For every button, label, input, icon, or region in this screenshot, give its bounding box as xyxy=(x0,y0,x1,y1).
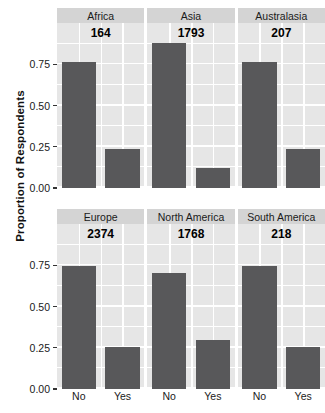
y-tick-label: 0.00 xyxy=(30,182,57,194)
y-tick-mark xyxy=(53,306,57,307)
bar-yes xyxy=(196,340,230,389)
panel-count-label: 1768 xyxy=(147,227,234,241)
y-tick-mark xyxy=(53,187,57,188)
x-tick-label: No xyxy=(147,389,191,403)
facet-australasia: Australasia207 xyxy=(238,8,325,202)
y-tick-label: 0.00 xyxy=(30,383,57,395)
bar-yes xyxy=(105,347,139,389)
bar-no xyxy=(62,62,96,188)
bar-no xyxy=(62,266,96,389)
bar-no xyxy=(152,43,186,188)
y-tick-mark xyxy=(53,265,57,266)
x-tick-label xyxy=(57,188,101,202)
panel-count-label: 218 xyxy=(238,227,325,241)
y-tick-mark xyxy=(53,146,57,147)
plot-panel: 207 xyxy=(238,23,325,188)
x-axis-ticks xyxy=(57,188,144,202)
y-axis-ticks-row-1: 0.000.250.500.75 xyxy=(0,224,57,389)
x-tick-label xyxy=(147,188,191,202)
y-tick-label: 0.75 xyxy=(30,259,57,271)
y-tick-text: 0.75 xyxy=(30,58,50,70)
facet-strip-label: Africa xyxy=(57,8,144,23)
facet-strip-label: Australasia xyxy=(238,8,325,23)
facet-strip-label: Asia xyxy=(147,8,234,23)
panel-count-label: 2374 xyxy=(57,227,144,241)
facet-north-america: North America1768NoYes xyxy=(147,209,234,403)
y-tick-label: 0.50 xyxy=(30,100,57,112)
y-tick-label: 0.25 xyxy=(30,342,57,354)
plot-panel: 164 xyxy=(57,23,144,188)
facet-strip-label: Europe xyxy=(57,209,144,224)
x-tick-label xyxy=(281,188,325,202)
x-axis-ticks: NoYes xyxy=(57,389,144,403)
bar-yes xyxy=(286,149,320,188)
y-tick-text: 0.75 xyxy=(30,259,50,271)
bar-yes xyxy=(196,168,230,188)
plot-panel: 1793 xyxy=(147,23,234,188)
y-tick-text: 0.50 xyxy=(30,301,50,313)
bar-no xyxy=(242,62,276,188)
y-tick-mark xyxy=(53,347,57,348)
y-tick-label: 0.50 xyxy=(30,301,57,313)
bar-yes xyxy=(286,347,320,389)
panel-count-label: 164 xyxy=(57,26,144,40)
x-axis-ticks: NoYes xyxy=(238,389,325,403)
bar-no xyxy=(242,266,276,389)
x-tick-label: Yes xyxy=(281,389,325,403)
facet-africa: Africa164 xyxy=(57,8,144,202)
facet-strip-label: North America xyxy=(147,209,234,224)
bar-yes xyxy=(105,149,139,188)
gridline-vertical xyxy=(101,23,103,188)
y-tick-mark xyxy=(53,105,57,106)
y-axis-ticks-row-0: 0.000.250.500.75 xyxy=(0,23,57,188)
plot-panel: 1768 xyxy=(147,224,234,389)
facet-grid: Africa164Asia1793Australasia207Europe237… xyxy=(57,8,325,403)
x-tick-label: Yes xyxy=(101,389,145,403)
y-tick-text: 0.50 xyxy=(30,100,50,112)
x-tick-label: Yes xyxy=(191,389,235,403)
gridline-vertical xyxy=(191,23,193,188)
gridline-vertical xyxy=(101,224,103,389)
faceted-bar-chart: Proportion of Respondents Africa164Asia1… xyxy=(0,0,325,413)
gridline-vertical xyxy=(281,224,283,389)
bar-no xyxy=(152,273,186,389)
x-axis-ticks xyxy=(238,188,325,202)
x-tick-label: No xyxy=(238,389,282,403)
y-tick-mark xyxy=(53,64,57,65)
gridline-vertical xyxy=(213,23,215,188)
y-tick-text: 0.25 xyxy=(30,342,50,354)
panel-count-label: 1793 xyxy=(147,26,234,40)
y-tick-label: 0.25 xyxy=(30,141,57,153)
x-tick-label xyxy=(101,188,145,202)
y-tick-text: 0.25 xyxy=(30,141,50,153)
gridline-vertical xyxy=(191,224,193,389)
facet-asia: Asia1793 xyxy=(147,8,234,202)
x-tick-label xyxy=(238,188,282,202)
y-tick-label: 0.75 xyxy=(30,58,57,70)
facet-strip-label: South America xyxy=(238,209,325,224)
plot-panel: 218 xyxy=(238,224,325,389)
y-tick-mark xyxy=(53,388,57,389)
x-axis-ticks xyxy=(147,188,234,202)
facet-europe: Europe2374NoYes xyxy=(57,209,144,403)
y-tick-text: 0.00 xyxy=(30,383,50,395)
facet-south-america: South America218NoYes xyxy=(238,209,325,403)
plot-panel: 2374 xyxy=(57,224,144,389)
gridline-vertical xyxy=(281,23,283,188)
x-tick-label: No xyxy=(57,389,101,403)
y-tick-text: 0.00 xyxy=(30,182,50,194)
panel-count-label: 207 xyxy=(238,26,325,40)
x-axis-ticks: NoYes xyxy=(147,389,234,403)
x-tick-label xyxy=(191,188,235,202)
